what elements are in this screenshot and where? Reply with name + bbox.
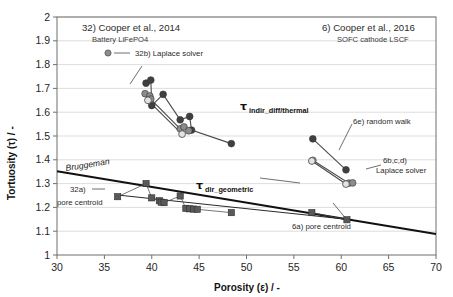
x-tick-label: 65 xyxy=(383,261,395,273)
legend-label-32b: 32b) Laplace solver xyxy=(135,49,203,58)
x-tick-label: 40 xyxy=(146,261,158,273)
label-6bcd-line1: 6b,c,d) xyxy=(383,156,407,165)
label-6a-pore-centroid: 6a) pore centroid xyxy=(292,222,351,231)
data-marker-circle-open xyxy=(308,158,315,165)
y-tick-label: 1.8 xyxy=(35,58,50,70)
data-marker-square xyxy=(177,193,183,199)
tau-symbol-indir: τ xyxy=(240,100,247,113)
data-marker-circle xyxy=(349,179,356,186)
y-tick-label: 1.7 xyxy=(35,82,50,94)
data-marker-square xyxy=(161,200,167,206)
data-marker-square xyxy=(228,210,234,216)
data-marker-circle xyxy=(160,91,167,98)
ref-right-subtitle: SOFC cathode LSCF xyxy=(337,35,409,44)
y-tick-label: 1.4 xyxy=(35,153,50,165)
data-marker-circle-open xyxy=(343,181,350,188)
label-32a-line2: pore centroid xyxy=(57,198,103,207)
data-marker-square xyxy=(194,206,200,212)
x-tick-label: 55 xyxy=(288,261,300,273)
data-marker-circle xyxy=(309,135,316,142)
y-tick-label: 1.3 xyxy=(35,177,50,189)
y-tick-label: 1.1 xyxy=(35,225,50,237)
x-axis-title: Porosity (ε) / - xyxy=(214,282,280,293)
y-tick-label: 1.6 xyxy=(35,106,50,118)
ref-left-title: 32) Cooper et al., 2014 xyxy=(82,22,181,33)
data-marker-circle-open xyxy=(179,131,186,138)
data-marker-square xyxy=(115,194,121,200)
tau-dir-subscript: dir_geometric xyxy=(205,185,253,194)
y-tick-label: 1.2 xyxy=(35,201,50,213)
y-tick-label: 2 xyxy=(44,11,50,23)
label-6e-random-walk: 6e) random walk xyxy=(353,117,411,126)
chart-background xyxy=(0,0,453,297)
tau-symbol-dir: τ xyxy=(196,179,203,192)
data-marker-square xyxy=(149,195,155,201)
x-tick-label: 35 xyxy=(99,261,111,273)
ref-left-subtitle: Battery LiFePO4 xyxy=(92,35,148,44)
ref-right-title: 6) Cooper et al., 2016 xyxy=(322,22,415,33)
tortuosity-porosity-scatter-chart: 11.11.21.31.41.51.61.71.81.92 3035404550… xyxy=(0,0,453,297)
data-marker-circle-open xyxy=(145,97,152,104)
x-tick-label: 45 xyxy=(193,261,205,273)
y-tick-label: 1 xyxy=(44,249,50,261)
data-marker-circle xyxy=(177,116,184,123)
tau-indir-subscript: indir_diff/thermal xyxy=(249,106,309,115)
label-6bcd-line2: Laplace solver xyxy=(376,166,427,175)
data-marker-circle xyxy=(228,140,235,147)
legend-marker-icon xyxy=(105,50,111,56)
x-tick-label: 30 xyxy=(51,261,63,273)
data-marker-square xyxy=(309,210,315,216)
chart-container: 11.11.21.31.41.51.61.71.81.92 3035404550… xyxy=(0,0,453,297)
label-32a-line1: 32a) xyxy=(70,185,86,194)
data-marker-square xyxy=(143,181,149,187)
data-marker-circle xyxy=(185,127,192,134)
y-axis-title: Tortuosity (τ) / - xyxy=(6,126,17,200)
x-tick-label: 60 xyxy=(335,261,347,273)
data-marker-circle xyxy=(186,113,193,120)
x-tick-label: 70 xyxy=(430,261,442,273)
data-marker-circle xyxy=(343,166,350,173)
x-tick-label: 50 xyxy=(241,261,253,273)
data-marker-circle xyxy=(147,77,154,84)
y-tick-label: 1.5 xyxy=(35,130,50,142)
y-tick-label: 1.9 xyxy=(35,34,50,46)
